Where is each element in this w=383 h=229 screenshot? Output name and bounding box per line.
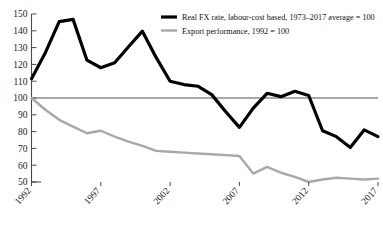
x-axis-tick-label: 1997 [82, 185, 102, 206]
x-axis-tick-labels: 199219972002200720122017 [13, 185, 380, 206]
y-axis-tick-label: 150 [13, 9, 28, 19]
x-axis-tick-label-group: 1997 [82, 185, 102, 206]
x-axis-tick-label: 2012 [290, 185, 310, 206]
y-axis-tick-label: 50 [18, 177, 28, 187]
x-axis-tick-label: 2017 [359, 185, 379, 206]
y-axis-tick-label: 140 [13, 26, 28, 36]
y-axis-tick-label: 100 [13, 93, 28, 103]
x-axis-tick-label: 1992 [13, 185, 33, 206]
x-axis-tick-label-group: 2012 [290, 185, 310, 206]
series-layer [32, 19, 379, 182]
y-axis-tick-label: 110 [14, 77, 28, 87]
y-axis-tick-label: 130 [13, 43, 28, 53]
x-axis-tick-label-group: 1992 [13, 185, 33, 206]
chart-container: 5060708090100110120130140150 19921997200… [0, 0, 383, 229]
x-axis-tick-label: 2007 [221, 185, 241, 206]
legend-item: Export performance, 1992 = 100 [161, 27, 289, 36]
legend-label: Export performance, 1992 = 100 [182, 27, 289, 36]
x-axis-tick-label-group: 2017 [359, 185, 379, 206]
x-axis-tick-label: 2002 [151, 185, 171, 206]
x-axis-tick-label-group: 2002 [151, 185, 171, 206]
x-axis-ticks [32, 182, 379, 186]
y-axis-tick-label: 70 [18, 144, 28, 154]
y-axis-tick-label: 120 [13, 60, 28, 70]
legend-label: Real FX rate, labour-cost based, 1973–20… [182, 13, 375, 22]
chart-legend: Real FX rate, labour-cost based, 1973–20… [161, 13, 375, 36]
x-axis-tick-label-group: 2007 [221, 185, 241, 206]
line-chart: 5060708090100110120130140150 19921997200… [0, 0, 383, 229]
y-axis-tick-labels: 5060708090100110120130140150 [13, 9, 28, 187]
series-line-real-fx-rate [32, 19, 379, 147]
y-axis-tick-label: 80 [18, 127, 28, 137]
y-axis-tick-label: 90 [18, 110, 28, 120]
legend-item: Real FX rate, labour-cost based, 1973–20… [161, 13, 375, 22]
y-axis-tick-label: 60 [18, 161, 28, 171]
series-line-export-performance [32, 98, 379, 182]
